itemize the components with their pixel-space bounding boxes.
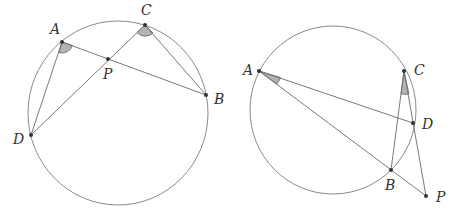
- segment-AB: [62, 42, 206, 95]
- point-P: [106, 57, 110, 61]
- label-D: D: [421, 116, 433, 132]
- segment-CD: [31, 25, 145, 135]
- left-circle: [28, 21, 208, 205]
- segment-CB: [145, 25, 206, 95]
- label-C: C: [414, 62, 425, 78]
- point-A: [60, 40, 64, 44]
- point-C: [143, 23, 147, 27]
- point-D: [29, 133, 33, 137]
- label-P: P: [435, 189, 446, 205]
- label-C: C: [141, 2, 152, 18]
- label-A: A: [241, 62, 253, 78]
- label-A: A: [48, 21, 60, 37]
- point-A: [257, 69, 261, 73]
- segment-CP: [404, 71, 426, 196]
- label-B: B: [384, 177, 395, 193]
- left-figure: A C P B D: [12, 2, 224, 205]
- segment-AD: [31, 42, 62, 135]
- label-P: P: [102, 66, 113, 82]
- point-B: [204, 93, 208, 97]
- point-P: [424, 194, 428, 198]
- label-D: D: [12, 131, 24, 147]
- point-B: [389, 168, 393, 172]
- point-D: [411, 121, 415, 125]
- point-C: [402, 69, 406, 73]
- label-B: B: [213, 91, 224, 107]
- segment-AD: [259, 71, 413, 123]
- geometry-diagram: A C P B D A C D B P: [0, 0, 458, 219]
- right-figure: A C D B P: [241, 26, 446, 205]
- segment-CB: [391, 71, 404, 170]
